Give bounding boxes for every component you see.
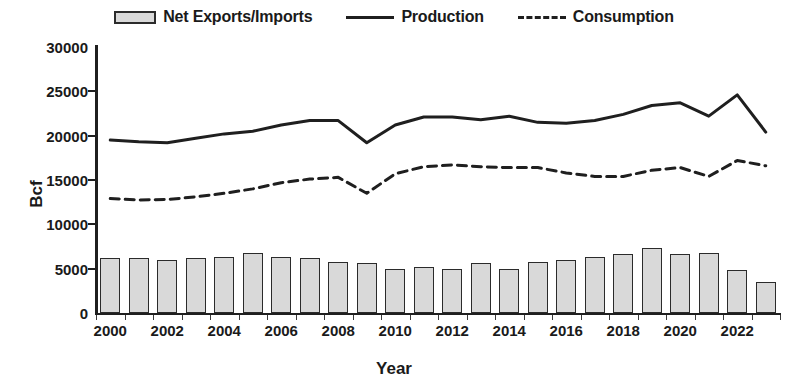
x-tick-mark (752, 315, 753, 320)
x-tick-mark (638, 315, 639, 320)
x-tick-mark (723, 315, 724, 320)
solid-line-swatch-icon (346, 16, 394, 19)
y-tick-label: 0 (22, 305, 88, 322)
x-tick-label: 2008 (322, 322, 355, 339)
x-tick-mark (467, 315, 468, 320)
x-tick-label: 2002 (151, 322, 184, 339)
x-tick-label: 2014 (493, 322, 526, 339)
x-tick-mark (438, 315, 439, 320)
legend-item-production: Production (346, 8, 483, 26)
bar-swatch-icon (114, 11, 156, 24)
plot-area (96, 47, 780, 313)
x-tick-label: 2000 (94, 322, 127, 339)
y-tick-label: 15000 (22, 172, 88, 189)
y-tick-label: 25000 (22, 83, 88, 100)
x-tick-mark (96, 315, 97, 320)
x-tick-mark (780, 315, 781, 320)
x-tick-mark (353, 315, 354, 320)
x-tick-mark (125, 315, 126, 320)
dashed-line-swatch-icon (518, 16, 566, 19)
x-tick-mark (695, 315, 696, 320)
x-tick-mark (410, 315, 411, 320)
legend-label-consumption: Consumption (573, 8, 674, 26)
legend-label-production: Production (401, 8, 483, 26)
x-axis-line (95, 313, 781, 315)
x-tick-label: 2016 (550, 322, 583, 339)
plot-container: Bcf Year 050001000015000200002500030000 … (0, 34, 788, 387)
line-series-layer (96, 47, 780, 313)
y-tick-label: 20000 (22, 127, 88, 144)
y-axis-tick-labels: 050001000015000200002500030000 (22, 34, 88, 334)
x-tick-label: 2018 (607, 322, 640, 339)
chart-legend: Net Exports/Imports Production Consumpti… (0, 0, 788, 34)
y-tick-label: 5000 (22, 260, 88, 277)
x-tick-label: 2010 (379, 322, 412, 339)
x-axis-title: Year (0, 359, 788, 379)
x-tick-label: 2006 (265, 322, 298, 339)
x-tick-mark (182, 315, 183, 320)
legend-item-consumption: Consumption (518, 8, 674, 26)
x-tick-mark (495, 315, 496, 320)
x-tick-mark (239, 315, 240, 320)
x-tick-mark (210, 315, 211, 320)
x-tick-mark (666, 315, 667, 320)
x-tick-mark (609, 315, 610, 320)
x-tick-label: 2004 (208, 322, 241, 339)
y-tick-label: 30000 (22, 39, 88, 56)
x-tick-mark (153, 315, 154, 320)
x-tick-label: 2022 (721, 322, 754, 339)
x-tick-mark (267, 315, 268, 320)
x-tick-mark (296, 315, 297, 320)
legend-item-net-exports-imports: Net Exports/Imports (114, 8, 312, 26)
x-tick-mark (381, 315, 382, 320)
line-series-production (110, 95, 766, 143)
y-tick-label: 10000 (22, 216, 88, 233)
x-tick-label: 2012 (436, 322, 469, 339)
chart-figure: Net Exports/Imports Production Consumpti… (0, 0, 788, 387)
line-series-consumption (110, 160, 766, 199)
x-tick-mark (324, 315, 325, 320)
x-tick-mark (552, 315, 553, 320)
x-tick-label: 2020 (664, 322, 697, 339)
legend-label-net-exports-imports: Net Exports/Imports (163, 8, 312, 26)
x-tick-mark (524, 315, 525, 320)
x-tick-mark (581, 315, 582, 320)
